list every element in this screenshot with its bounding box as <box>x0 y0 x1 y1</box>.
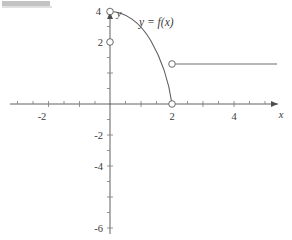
graph-figure: -2 2 4 4 2 -2 -4 -6 x y y = f(x) <box>0 0 292 240</box>
xtick-label-4: 4 <box>231 111 237 122</box>
function-label: y = f(x) <box>138 16 174 29</box>
linear-branch <box>16 12 111 229</box>
x-axis <box>10 101 278 107</box>
xtick-label-2: 2 <box>169 111 174 122</box>
xtick-label-neg2: -2 <box>38 111 47 122</box>
open-point-2-0 <box>169 101 176 108</box>
piecewise-function-plot: -2 2 4 4 2 -2 -4 -6 x y y = f(x) <box>0 0 292 240</box>
ytick-label-2: 2 <box>98 37 103 48</box>
ytick-label-4: 4 <box>96 6 102 17</box>
open-point-0-4 <box>107 8 114 15</box>
ytick-label-neg6: -6 <box>94 223 103 234</box>
ytick-label-neg4: -4 <box>94 161 103 172</box>
y-axis-label: y <box>116 8 122 19</box>
open-point-0-3 <box>107 39 114 46</box>
open-point-2-2 <box>169 61 176 68</box>
scan-artifact-bar-secondary <box>2 6 52 8</box>
ytick-label-neg2: -2 <box>94 130 103 141</box>
x-axis-arrowhead <box>271 101 278 107</box>
x-axis-label: x <box>278 109 284 120</box>
